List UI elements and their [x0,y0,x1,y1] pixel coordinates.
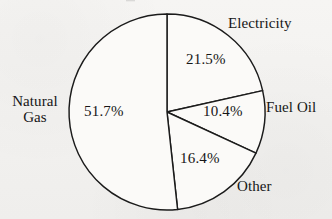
slice-value-fuel-oil: 10.4% [203,103,243,120]
slice-value-electricity: 21.5% [186,51,226,68]
slice-label-other: Other [237,179,272,194]
slice-label-natural-gas-line2: Gas [6,110,64,126]
slice-label-natural-gas: Natural Gas [6,94,64,126]
slice-label-electricity: Electricity [228,16,292,31]
slice-value-natural-gas: 51.7% [84,103,124,120]
slice-label-natural-gas-line1: Natural [6,94,64,110]
pie-chart-figure: Electricity Fuel Oil Other Natural Gas 2… [0,0,332,219]
slice-value-other: 16.4% [180,150,220,167]
slice-label-fuel-oil: Fuel Oil [266,100,316,115]
